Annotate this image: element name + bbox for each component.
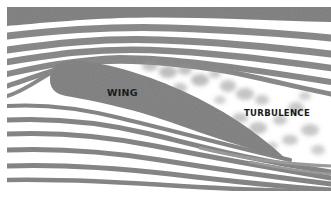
- wing-label: WING: [107, 87, 138, 98]
- airflow-illustration: [0, 0, 331, 203]
- airflow-diagram: WING TURBULENCE: [0, 0, 331, 203]
- turbulence-label: TURBULENCE: [244, 108, 310, 118]
